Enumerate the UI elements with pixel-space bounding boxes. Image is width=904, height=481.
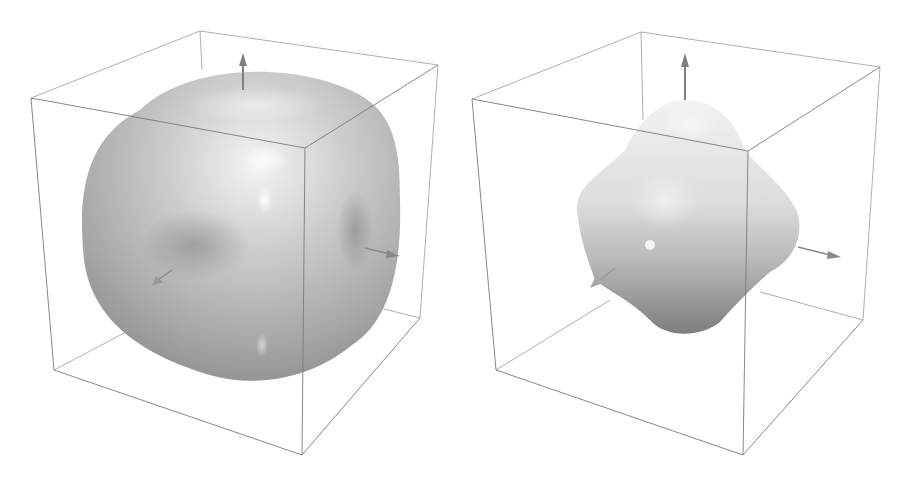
right-panel	[472, 32, 880, 455]
left-panel	[31, 31, 438, 455]
right-x-axis-arrow	[798, 247, 841, 259]
figure-canvas	[0, 0, 904, 481]
right-surface	[577, 100, 799, 334]
right-z-axis-arrow	[681, 53, 689, 100]
